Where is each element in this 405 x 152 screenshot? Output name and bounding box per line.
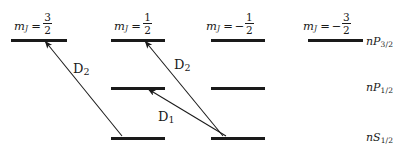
mj-subscript: J bbox=[125, 24, 128, 33]
level-line-nP32-mj32 bbox=[11, 39, 67, 42]
mj-equals: = bbox=[31, 19, 41, 33]
transition-label-index: 1 bbox=[168, 114, 174, 125]
mj-symbol: m bbox=[303, 19, 314, 33]
transition-label-letter: D bbox=[174, 57, 184, 72]
mj-numerator: 1 bbox=[245, 12, 254, 24]
transition-label-d2-left: D2 bbox=[73, 62, 89, 77]
mj-equals: = bbox=[131, 19, 141, 33]
mj-sign: − bbox=[235, 19, 245, 33]
energy-level-diagram: mJ=32 mJ=12 mJ=−12 mJ=−32 nP3/2 nP1/2 nS… bbox=[0, 0, 405, 152]
mj-label-col-0: mJ=32 bbox=[14, 12, 53, 36]
mj-denominator: 2 bbox=[143, 24, 152, 35]
mj-label-col-1: mJ=12 bbox=[114, 12, 153, 36]
mj-subscript: J bbox=[217, 24, 220, 33]
term-subscript: 3/2 bbox=[381, 40, 394, 49]
transition-label-letter: D bbox=[73, 61, 83, 76]
mj-fraction: 12 bbox=[245, 12, 254, 36]
transition-label-letter: D bbox=[158, 109, 168, 124]
term-orbital: S bbox=[373, 131, 381, 144]
mj-subscript: J bbox=[25, 24, 28, 33]
term-label-nP12: nP1/2 bbox=[366, 82, 393, 94]
transition-label-index: 2 bbox=[83, 66, 89, 77]
mj-denominator: 2 bbox=[245, 24, 254, 35]
level-line-nS12-mj12 bbox=[111, 137, 165, 140]
term-subscript: 1/2 bbox=[381, 86, 394, 95]
mj-fraction: 32 bbox=[43, 12, 52, 36]
level-line-nP32-mj12 bbox=[111, 39, 165, 42]
transition-label-d1: D1 bbox=[158, 110, 174, 125]
level-line-nS12-mj-12 bbox=[211, 137, 265, 140]
term-label-nS12: nS1/2 bbox=[366, 132, 393, 144]
term-orbital: P bbox=[373, 81, 380, 94]
mj-fraction: 12 bbox=[143, 12, 152, 36]
mj-label-col-3: mJ=−32 bbox=[303, 12, 351, 36]
level-line-nP12-mj-12 bbox=[211, 87, 265, 90]
level-line-nP32-mj-32 bbox=[308, 39, 363, 42]
mj-denominator: 2 bbox=[43, 24, 52, 35]
mj-denominator: 2 bbox=[342, 24, 351, 35]
mj-numerator: 3 bbox=[43, 12, 52, 24]
mj-fraction: 32 bbox=[342, 12, 351, 36]
level-line-nP32-mj-12 bbox=[211, 39, 265, 42]
mj-numerator: 3 bbox=[342, 12, 351, 24]
transition-label-d2-right: D2 bbox=[174, 58, 190, 73]
term-subscript: 1/2 bbox=[381, 136, 394, 145]
mj-symbol: m bbox=[114, 19, 125, 33]
mj-numerator: 1 bbox=[143, 12, 152, 24]
level-line-nP12-mj12 bbox=[111, 87, 165, 90]
mj-symbol: m bbox=[206, 19, 217, 33]
term-label-nP32: nP3/2 bbox=[366, 36, 393, 48]
mj-label-col-2: mJ=−12 bbox=[206, 12, 254, 36]
transition-label-index: 2 bbox=[184, 62, 190, 73]
term-orbital: P bbox=[373, 35, 380, 48]
mj-equals: = bbox=[223, 19, 233, 33]
mj-sign: − bbox=[332, 19, 342, 33]
mj-subscript: J bbox=[314, 24, 317, 33]
mj-symbol: m bbox=[14, 19, 25, 33]
mj-equals: = bbox=[320, 19, 330, 33]
